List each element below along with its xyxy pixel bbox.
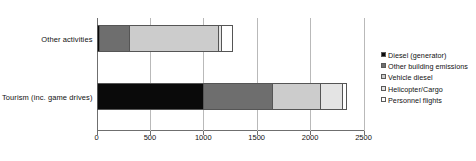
- legend-item[interactable]: Vehicle diesel: [381, 73, 476, 82]
- bar-segment[interactable]: [97, 83, 204, 110]
- legend-label: Other building emissions: [388, 62, 468, 71]
- bar-segment[interactable]: [129, 25, 218, 52]
- stacked-bar-chart: Other activities Tourism (inc. game driv…: [0, 0, 476, 161]
- legend-swatch-icon: [381, 86, 386, 91]
- legend-item[interactable]: Diesel (generator): [381, 51, 476, 60]
- x-axis-line: [97, 130, 364, 131]
- legend-item[interactable]: Other building emissions: [381, 62, 476, 71]
- x-axis-tick-label: 2500: [355, 133, 372, 142]
- bar-segment[interactable]: [342, 83, 347, 110]
- plot-area: Other activities Tourism (inc. game driv…: [97, 18, 364, 131]
- x-axis-tick-label: 2000: [302, 133, 319, 142]
- bar-segment[interactable]: [272, 83, 321, 110]
- legend-swatch-icon: [381, 52, 386, 57]
- x-axis-tick-label: 500: [144, 133, 157, 142]
- legend-item[interactable]: Helicopter/Cargo: [381, 85, 476, 94]
- bar-tourism[interactable]: Tourism (inc. game drives): [97, 83, 352, 110]
- legend-label: Vehicle diesel: [388, 73, 433, 82]
- chart-legend: Diesel (generator)Other building emissio…: [381, 51, 476, 107]
- x-axis-tick-label: 0: [94, 133, 98, 142]
- category-label-tourism: Tourism (inc. game drives): [2, 92, 93, 101]
- gridline: [364, 18, 365, 131]
- x-axis-tick-label: 1500: [248, 133, 265, 142]
- legend-swatch-icon: [381, 97, 386, 102]
- legend-item[interactable]: Personnel flights: [381, 96, 476, 105]
- legend-swatch-icon: [381, 63, 386, 68]
- bar-segment[interactable]: [221, 25, 233, 52]
- legend-label: Diesel (generator): [388, 51, 446, 60]
- bar-segment[interactable]: [99, 25, 130, 52]
- category-label-other-activities: Other activities: [41, 34, 92, 43]
- bar-segment[interactable]: [320, 83, 343, 110]
- legend-swatch-icon: [381, 74, 386, 79]
- bar-segment[interactable]: [203, 83, 273, 110]
- legend-label: Personnel flights: [388, 96, 442, 105]
- legend-label: Helicopter/Cargo: [388, 85, 443, 94]
- x-axis-tick-labels: 05001000150020002500: [97, 133, 364, 147]
- gridline: [310, 18, 311, 131]
- gridline: [257, 18, 258, 131]
- bar-other-activities[interactable]: Other activities: [97, 25, 237, 52]
- x-axis-tick-label: 1000: [195, 133, 212, 142]
